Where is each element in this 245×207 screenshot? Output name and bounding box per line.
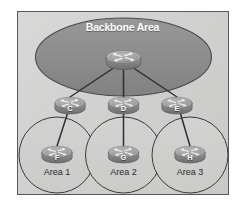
router-d-tag: D: [114, 105, 134, 113]
core-router-icon[interactable]: [106, 50, 141, 70]
router-g-tag: G: [114, 154, 134, 162]
backbone-area-title: Backbone Area: [0, 22, 245, 33]
router-e-tag: E: [167, 105, 187, 113]
area-1-label: Area 1: [27, 168, 87, 177]
router-c-tag: C: [60, 105, 80, 113]
router-f-tag: F: [47, 154, 67, 162]
network-diagram-figure: Backbone Area C D E F G H Area 1 Area 2 …: [0, 0, 245, 207]
area-3-label: Area 3: [160, 168, 220, 177]
area-2-label: Area 2: [94, 168, 154, 177]
router-h-tag: H: [180, 154, 200, 162]
